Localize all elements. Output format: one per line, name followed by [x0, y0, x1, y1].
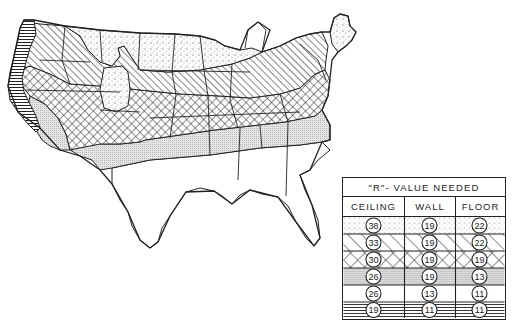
r-wall-row6: 11 [425, 305, 434, 315]
r-ceiling-row4: 26 [368, 272, 378, 282]
r-wall-row1: 19 [424, 221, 434, 231]
r-floor-row2: 22 [474, 238, 484, 248]
legend-title: "R"- VALUE NEEDED [343, 178, 505, 197]
r-value-legend: "R"- VALUE NEEDED CEILING WALL FLOOR [342, 177, 506, 320]
zone-stipple-colorado [100, 66, 130, 112]
r-wall-row3: 19 [424, 255, 434, 265]
r-ceiling-row3: 30 [368, 255, 378, 265]
r-ceiling-row5: 26 [368, 289, 378, 299]
r-floor-row1: 22 [474, 221, 484, 231]
r-wall-row5: 13 [424, 289, 434, 299]
r-floor-row6: 11 [475, 305, 484, 315]
header-floor: FLOOR [456, 197, 505, 216]
legend-rows: 38 19 22 33 19 22 30 19 19 26 19 13 26 1… [343, 217, 505, 318]
r-ceiling-row2: 33 [368, 238, 378, 248]
r-wall-row4: 19 [424, 272, 434, 282]
r-floor-row4: 13 [474, 272, 484, 282]
header-wall: WALL [405, 197, 456, 216]
r-floor-row3: 19 [474, 255, 484, 265]
r-floor-row5: 11 [475, 289, 484, 299]
r-ceiling-row6: 19 [368, 305, 378, 315]
us-insulation-zone-map [0, 0, 370, 270]
legend-table: "R"- VALUE NEEDED CEILING WALL FLOOR [342, 177, 506, 320]
r-ceiling-row1: 38 [368, 221, 378, 231]
header-ceiling: CEILING [343, 197, 405, 216]
r-wall-row2: 19 [424, 238, 434, 248]
legend-header-row: CEILING WALL FLOOR [343, 197, 505, 217]
